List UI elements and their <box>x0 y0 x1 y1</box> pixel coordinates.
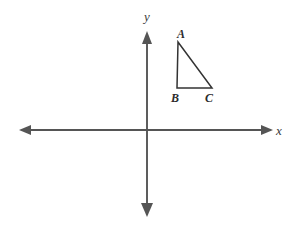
vertex-label-a: A <box>176 27 185 41</box>
y-axis-arrow-up <box>142 31 152 44</box>
triangle-abc-group: A B C <box>170 27 214 105</box>
y-axis-arrow-down <box>141 203 153 217</box>
triangle-abc-shape <box>177 42 212 88</box>
x-axis-arrow-right <box>261 125 273 135</box>
x-axis-label: x <box>275 123 282 138</box>
vertex-label-c: C <box>205 91 214 105</box>
coordinate-plane-figure: x y A B C <box>0 0 304 226</box>
vertex-label-b: B <box>170 91 179 105</box>
y-axis-label: y <box>142 9 150 24</box>
figure-canvas: x y A B C <box>0 0 304 226</box>
x-axis-group: x <box>19 123 282 138</box>
x-axis-arrow-left <box>19 125 31 135</box>
y-axis-group: y <box>141 9 153 217</box>
